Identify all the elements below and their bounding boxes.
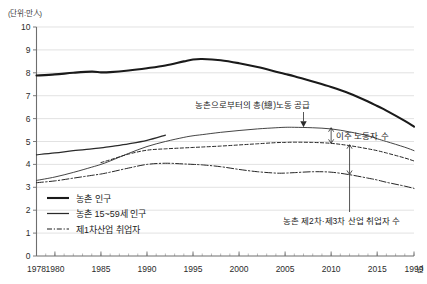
y-tick-label: 8	[26, 68, 31, 78]
x-tick-label: 2005	[276, 264, 295, 274]
x-tick-label: 1995	[184, 264, 203, 274]
y-tick-label: 5	[26, 137, 31, 147]
annotation-label-total-supply: 농촌으로부터의 총(總)노동 공급	[195, 100, 310, 110]
annotation-arrowhead	[300, 121, 306, 127]
y-tick-label: 10	[21, 22, 31, 32]
y-tick-label: 1	[26, 228, 31, 238]
x-tick-label: 1985	[91, 264, 110, 274]
data-series-layer	[37, 59, 415, 188]
x-axis-ticks: 1978198019851990199520002005201020151999	[27, 252, 424, 275]
series-line	[37, 135, 166, 155]
legend-label: 제1차산업 취업자	[76, 224, 141, 235]
y-tick-label: 7	[26, 91, 31, 101]
chart-legend: 농촌 인구농촌 15~59세 인구제1차산업 취업자	[47, 194, 146, 235]
legend-label: 농촌 15~59세 인구	[76, 209, 146, 219]
y-tick-label: 3	[26, 182, 31, 192]
x-tick-label: 1978	[27, 264, 46, 274]
line-chart-plot: 012345678910 197819801985199019952000200…	[0, 0, 427, 284]
x-tick-label: 2000	[230, 264, 249, 274]
annotation-label-migrant-workers: 이주 노동자 수	[336, 131, 389, 141]
chart-figure: (단위:만人) 012345678910 1978198019851990199…	[0, 0, 427, 284]
series-line	[37, 59, 415, 127]
x-tick-label: 2010	[322, 264, 341, 274]
x-tick-label: 2015	[368, 264, 387, 274]
x-tick-label: 1990	[138, 264, 157, 274]
y-tick-label: 9	[26, 45, 31, 55]
y-tick-label: 2	[26, 205, 31, 215]
series-line	[101, 142, 414, 162]
x-tick-label: 1980	[45, 264, 64, 274]
y-axis-ticks: 012345678910	[21, 22, 36, 261]
y-tick-label: 4	[26, 159, 31, 169]
y-tick-label: 0	[26, 251, 31, 261]
y-tick-label: 6	[26, 114, 31, 124]
annotation-label-secondary-tertiary: 농촌 제2차·제3차 산업 취업자 수	[283, 216, 401, 226]
legend-label: 농촌 인구	[76, 194, 111, 204]
x-axis-suffix-label: 년	[416, 264, 424, 274]
